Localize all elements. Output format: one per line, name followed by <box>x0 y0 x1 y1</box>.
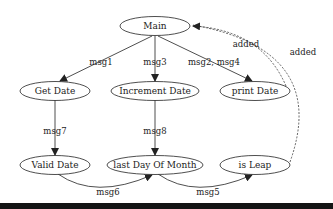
node-label: Valid Date <box>31 160 79 170</box>
node-increment-date[interactable]: Increment Date <box>111 82 199 101</box>
edge-print-date-main-added <box>193 26 286 86</box>
node-label: is Leap <box>239 160 272 170</box>
edge-valid-date-last-day <box>58 174 152 187</box>
node-label: last Day Of Month <box>113 160 196 170</box>
node-valid-date[interactable]: Valid Date <box>20 156 90 175</box>
node-label: Increment Date <box>119 86 191 96</box>
node-get-date[interactable]: Get Date <box>20 82 90 101</box>
edge-label-msg6: msg6 <box>96 187 119 197</box>
node-is-leap[interactable]: is Leap <box>220 156 290 175</box>
node-main[interactable]: Main <box>120 17 190 36</box>
edge-label-msg8: msg8 <box>143 126 166 136</box>
bottom-bar <box>0 203 333 209</box>
node-label: Main <box>143 21 166 31</box>
edge-label-msg5: msg5 <box>196 187 219 197</box>
node-last-day-of-month[interactable]: last Day Of Month <box>107 156 203 175</box>
edge-label-added-print-date: added <box>233 39 260 49</box>
edge-last-day-is-leap <box>158 174 252 187</box>
node-label: Get Date <box>35 86 76 96</box>
node-print-date[interactable]: print Date <box>220 82 290 101</box>
edge-label-added-is-leap: added <box>290 47 317 57</box>
edge-label-msg1: msg1 <box>89 57 112 67</box>
node-label: print Date <box>232 86 279 96</box>
edge-label-msg7: msg7 <box>43 126 66 136</box>
edge-label-msg2-msg4: msg2, msg4 <box>188 57 240 67</box>
edge-label-msg3: msg3 <box>143 57 166 67</box>
call-graph-diagram: Main Get Date Increment Date print Date … <box>0 0 333 209</box>
